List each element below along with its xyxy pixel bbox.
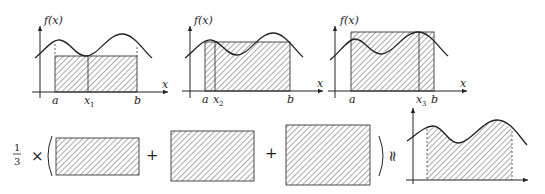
plus-sign-2: + — [265, 144, 278, 162]
x-axis-label: x — [317, 77, 324, 90]
y-axis-label: f(x) — [193, 14, 213, 27]
tick-a: a — [202, 93, 209, 106]
plus-sign-1: + — [146, 146, 159, 164]
panel-3: f(x) x a x 3 b — [328, 14, 467, 108]
tick-b: b — [431, 93, 438, 106]
rectangle-2 — [171, 131, 254, 181]
y-axis-label: f(x) — [339, 14, 359, 27]
tick-b: b — [287, 93, 294, 106]
svg-text:3: 3 — [422, 100, 426, 108]
open-paren — [48, 136, 52, 176]
function-curve — [35, 34, 152, 58]
area-under-curve-panel — [406, 108, 528, 184]
svg-text:2: 2 — [219, 100, 223, 108]
rectangle-1 — [56, 138, 139, 175]
x-axis-label: x — [162, 78, 169, 91]
tick-b: b — [134, 94, 141, 107]
tick-a: a — [349, 93, 356, 106]
svg-text:1: 1 — [90, 101, 94, 109]
close-paren — [379, 136, 383, 176]
fraction-denominator: 3 — [14, 156, 20, 167]
approx-rectangle — [55, 56, 137, 92]
times-sign: × — [31, 147, 44, 165]
fraction-numerator: 1 — [14, 142, 20, 153]
panel-2: f(x) x a x 2 b — [182, 14, 324, 108]
rectangle-3 — [286, 125, 370, 185]
average-equation: 1 3 × + + ≈ — [13, 125, 402, 185]
riemann-average-diagram: f(x) x a x 1 b f(x) x a x 2 b f(x) x a x… — [0, 0, 545, 194]
tick-a: a — [52, 94, 59, 107]
panel-1: f(x) x a x 1 b — [32, 14, 169, 109]
approx-sign: ≈ — [384, 150, 402, 163]
approx-rectangle — [351, 32, 434, 91]
x-axis-label: x — [460, 77, 467, 90]
y-axis-label: f(x) — [43, 14, 63, 27]
